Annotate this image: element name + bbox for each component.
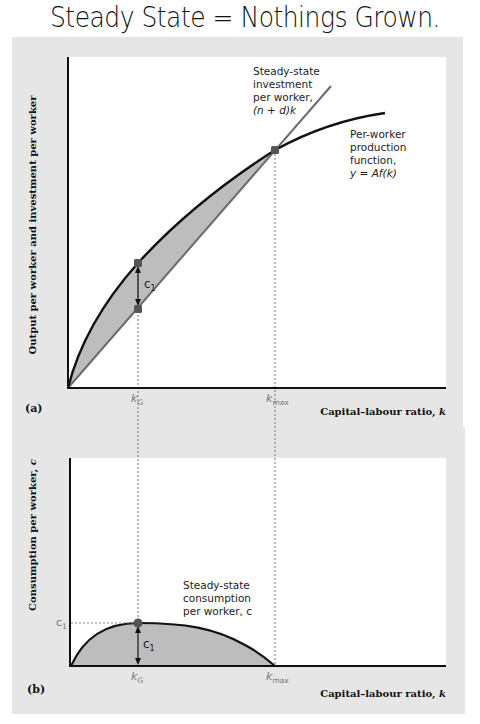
- figure: c1 Steady-state investment per worker, (…: [0, 0, 480, 724]
- svg-text:Steady-state: Steady-state: [253, 65, 320, 77]
- svg-text:investment: investment: [253, 78, 312, 90]
- svg-text:production: production: [350, 141, 406, 153]
- panel-b-x-label: Capital–labour ratio, k: [320, 688, 446, 700]
- panel-a-y-label: Output per worker and investment per wor…: [27, 95, 38, 355]
- svg-text:y = Af(k): y = Af(k): [349, 167, 397, 179]
- svg-text:(n + d)k: (n + d)k: [253, 104, 297, 116]
- svg-text:Per-worker: Per-worker: [350, 128, 406, 140]
- panel-b-y-label: Consumption per worker, c: [27, 459, 39, 611]
- panel-b-tag: (b): [27, 683, 45, 696]
- point-max-consumption: [134, 619, 143, 628]
- svg-text:consumption: consumption: [183, 592, 251, 604]
- point-y-at-kg: [134, 259, 142, 267]
- svg-text:function,: function,: [350, 154, 396, 166]
- point-investment-at-kg: [134, 305, 142, 313]
- svg-text:per worker,: per worker,: [253, 91, 313, 103]
- panel-a-tag: (a): [25, 402, 43, 415]
- point-intersection-kmax: [271, 146, 279, 154]
- svg-text:per worker, c: per worker, c: [183, 605, 252, 617]
- svg-text:Steady-state: Steady-state: [183, 579, 250, 591]
- consumption-label: Steady-state consumption per worker, c: [183, 579, 252, 617]
- panel-a-x-label: Capital–labour ratio, k: [320, 406, 446, 418]
